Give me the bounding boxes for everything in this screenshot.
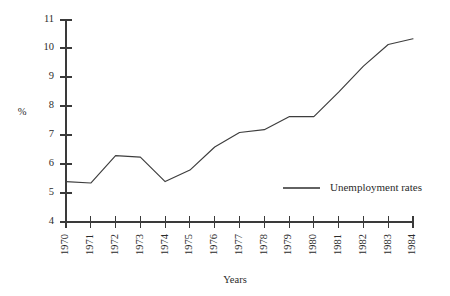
series-line-unemployment-rates	[66, 39, 413, 183]
y-tick-label: 6	[49, 157, 54, 168]
x-tick-label: 1981	[332, 234, 343, 255]
x-axis-title: Years	[223, 274, 246, 285]
y-tick-label: 4	[49, 215, 55, 226]
x-tick-label: 1973	[134, 234, 145, 255]
x-tick-label: 1978	[258, 234, 269, 255]
x-tick-labels: 1970197119721973197419751976197719781979…	[59, 233, 417, 255]
x-tick-label: 1970	[59, 234, 70, 255]
x-tick-label: 1982	[357, 234, 368, 255]
x-tick-label: 1974	[159, 233, 170, 255]
unemployment-rate-line-chart: 11 10 9 8 7 6 5 4 % 19701971197219731974…	[0, 0, 450, 296]
y-tick-label: 10	[44, 41, 55, 52]
x-tick-label: 1972	[109, 234, 120, 255]
x-tick-label: 1983	[382, 234, 393, 255]
x-tick-label: 1980	[307, 234, 318, 255]
x-tick-label: 1976	[208, 234, 219, 255]
y-tick-labels: 11 10 9 8 7 6 5 4	[44, 13, 55, 226]
y-tick-label: 5	[49, 186, 54, 197]
x-tick-label: 1977	[233, 234, 244, 255]
x-tick-label: 1971	[84, 234, 95, 255]
chart-legend: Unemployment rates	[283, 181, 422, 193]
x-tick-label: 1975	[183, 234, 194, 255]
x-tick-label: 1984	[406, 233, 417, 255]
y-tick-label: 9	[49, 70, 54, 81]
y-tick-label: 11	[44, 13, 54, 24]
y-tick-label: 7	[49, 128, 54, 139]
legend-label: Unemployment rates	[330, 181, 422, 193]
y-tick-label: 8	[49, 99, 54, 110]
y-axis-title: %	[18, 106, 27, 117]
x-tick-label: 1979	[282, 234, 293, 255]
chart-canvas: 11 10 9 8 7 6 5 4 % 19701971197219731974…	[0, 0, 450, 296]
